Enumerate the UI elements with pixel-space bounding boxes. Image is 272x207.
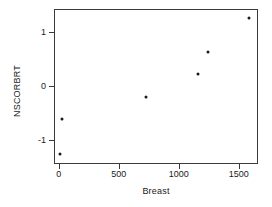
- data-point: [144, 96, 147, 99]
- data-point: [60, 118, 63, 121]
- y-tick-label: 1: [41, 27, 46, 36]
- data-point: [247, 17, 250, 20]
- y-tick-label: 0: [41, 81, 46, 90]
- y-tick-label: -1: [38, 135, 46, 144]
- plot-frame: [54, 9, 258, 164]
- y-tick-mark: [49, 140, 54, 141]
- y-tick-mark: [49, 32, 54, 33]
- y-axis-title: NSCORBRT: [12, 43, 22, 139]
- x-tick-label: 1500: [229, 170, 249, 179]
- scatter-plot-figure: 10-1 NSCORBRT 050010001500 Breast: [0, 0, 272, 207]
- data-point: [58, 153, 61, 156]
- y-tick-mark: [49, 86, 54, 87]
- data-point: [196, 72, 199, 75]
- data-points-layer: [55, 10, 257, 163]
- x-tick-label: 0: [56, 170, 61, 179]
- x-axis-title: Breast: [54, 186, 258, 196]
- data-point: [206, 51, 209, 54]
- x-tick-label: 500: [111, 170, 126, 179]
- x-tick-label: 1000: [169, 170, 189, 179]
